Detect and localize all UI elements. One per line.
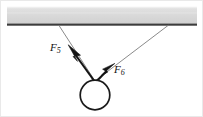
ceiling-bar (7, 6, 197, 25)
force-label-f6: F6 (114, 64, 125, 77)
force-vector-f5 (68, 45, 95, 82)
f5-shaft (75, 54, 96, 83)
force-label-f5-subscript: 5 (57, 46, 61, 55)
ceiling-group (7, 6, 197, 26)
f6-arrowhead (101, 63, 115, 75)
force-label-f5: F5 (50, 42, 61, 55)
figure-canvas (0, 0, 203, 117)
force-label-f6-subscript: 6 (121, 68, 125, 77)
ceiling-bottom-edge (7, 24, 197, 26)
force-label-f6-symbol: F (114, 63, 121, 75)
ball (80, 80, 110, 110)
physics-figure: F5 F6 (0, 0, 203, 117)
force-label-f5-symbol: F (50, 41, 57, 53)
